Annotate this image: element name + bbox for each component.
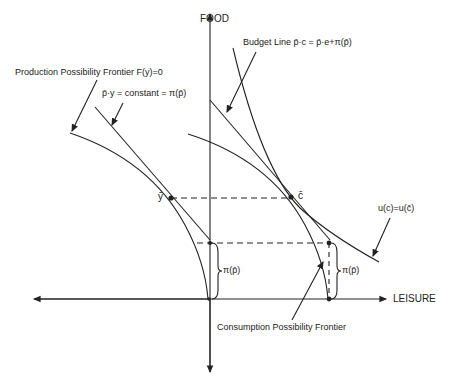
indifference-leader [373, 218, 390, 256]
pi-right-label: π(p̄) [342, 266, 359, 275]
cpf-label: Consumption Possibility Frontier [217, 323, 346, 332]
c-bar-label: c̄ [298, 191, 303, 201]
point-profit-axis [208, 241, 212, 245]
budget-line [210, 100, 330, 240]
cpf-curve [188, 134, 328, 299]
point-origin-ppf [207, 297, 211, 301]
pi-left-label: π(p̄) [223, 266, 240, 275]
isoprofit-line [95, 107, 210, 240]
leisure-axis-label: LEISURE [393, 294, 436, 304]
point-cpf-top [327, 241, 332, 246]
budget-leader [227, 52, 256, 112]
indifference-label: u(c)=u(c̄) [378, 204, 414, 213]
isoprofit-label: p̄·y = constant = π(p̄) [102, 89, 186, 98]
ppf-label: Production Possibility Frontier F(y)=0 [15, 68, 163, 77]
point-y-bar [168, 195, 173, 200]
isoprofit-leader [112, 103, 123, 125]
point-c-bar [288, 194, 293, 199]
brace-left [212, 243, 222, 299]
food-axis-label: FOOD [200, 14, 229, 24]
y-bar-label: ȳ [158, 192, 163, 202]
point-cpf-bottom [327, 297, 332, 302]
budget-line-label: Budget Line p̄·c = p̄·e+π(p̄) [243, 38, 352, 47]
ppf-leader [72, 80, 97, 131]
brace-right [331, 243, 341, 299]
cpf-leader [292, 262, 323, 320]
indifference-curve [233, 48, 379, 262]
